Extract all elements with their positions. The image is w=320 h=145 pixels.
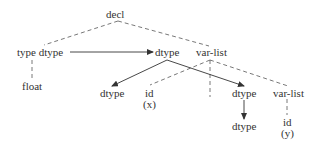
edge-decl-varlist [118,21,209,46]
node-type-dtype: type dtype [17,47,63,58]
edge-decl-type [44,21,118,45]
dep-dtype-to-left [112,60,167,86]
edge-varlist-varlist [210,60,288,86]
node-id-x-value: (x) [143,99,156,110]
node-float: float [22,81,42,92]
node-decl: decl [106,9,124,20]
node-dtype-left: dtype [100,88,124,99]
dep-dtype-to-right [167,60,244,86]
node-varlist-right: var-list [273,88,304,99]
node-dtype-right: dtype [232,88,256,99]
node-dtype-mid: dtype [155,47,179,58]
node-varlist-top: var-list [196,47,227,58]
dependency-graph-diagram: decl type dtype dtype var-list float dty… [0,0,320,145]
diagram-edges [0,0,320,145]
node-id-y-value: (y) [281,128,294,139]
node-dtype-bottom: dtype [232,121,256,132]
